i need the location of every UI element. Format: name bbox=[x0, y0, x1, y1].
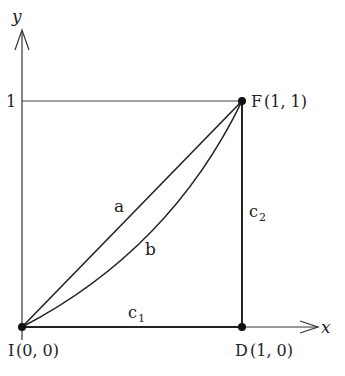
y-axis-label: y bbox=[11, 6, 22, 26]
path-c1-label: c bbox=[128, 303, 137, 322]
point-F-name: F bbox=[251, 92, 262, 111]
x-axis-label: x bbox=[321, 317, 331, 337]
diagram-svg: y x 1 F (1, 1) I (0, 0) D (1, 0) a b c 1… bbox=[0, 0, 345, 376]
point-F bbox=[238, 97, 246, 105]
point-F-coords: (1, 1) bbox=[264, 92, 307, 111]
point-I-name: I bbox=[8, 341, 14, 360]
path-a-label: a bbox=[114, 196, 124, 216]
point-I-coords: (0, 0) bbox=[16, 341, 59, 360]
y-tick-1: 1 bbox=[6, 92, 16, 111]
point-D-name: D bbox=[235, 341, 248, 360]
path-c2-label: c bbox=[249, 202, 258, 221]
path-b-label: b bbox=[145, 239, 156, 259]
point-D bbox=[238, 323, 246, 331]
path-diagram: y x 1 F (1, 1) I (0, 0) D (1, 0) a b c 1… bbox=[0, 0, 345, 376]
path-c2-subscript: 2 bbox=[259, 211, 266, 224]
path-c1-subscript: 1 bbox=[138, 312, 145, 325]
path-a bbox=[22, 101, 242, 327]
point-D-coords: (1, 0) bbox=[250, 341, 293, 360]
point-I bbox=[18, 323, 26, 331]
